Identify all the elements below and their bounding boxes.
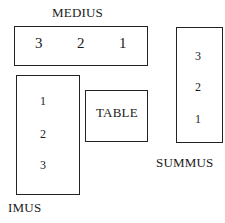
imus-position-1: 1 <box>40 94 46 109</box>
imus-position-3: 3 <box>40 158 46 173</box>
medius-label: MEDIUS <box>52 5 103 21</box>
imus-position-2: 2 <box>40 127 46 142</box>
imus-label: IMUS <box>8 200 41 216</box>
summus-position-1: 1 <box>195 112 201 127</box>
medius-couch: 3 2 1 <box>14 26 148 66</box>
table: TABLE <box>85 90 148 142</box>
medius-position-2: 2 <box>77 35 85 52</box>
table-label: TABLE <box>96 105 138 121</box>
summus-couch: 3 2 1 <box>176 27 223 143</box>
imus-couch: 1 2 3 <box>16 75 80 195</box>
summus-position-3: 3 <box>195 49 201 64</box>
summus-position-2: 2 <box>195 80 201 95</box>
medius-position-3: 3 <box>35 35 43 52</box>
medius-position-1: 1 <box>119 35 127 52</box>
summus-label: SUMMUS <box>156 155 214 171</box>
